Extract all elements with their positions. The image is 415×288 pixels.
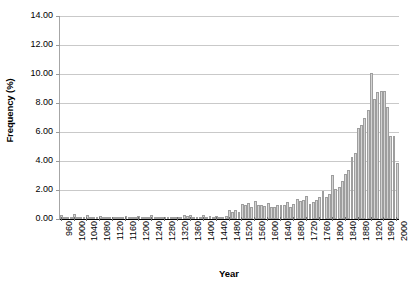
x-tick-mark <box>190 217 191 221</box>
x-tick-mark <box>177 217 178 221</box>
y-axis-title-label: Frequency (%) <box>4 78 15 142</box>
x-tick-mark <box>358 217 359 221</box>
x-tick-label: 1200 <box>142 221 151 241</box>
y-tick-label: 2.00 <box>15 185 53 194</box>
x-tick-mark <box>74 217 75 221</box>
x-tick-mark <box>203 217 204 221</box>
histogram-chart: Frequency (%) 14.0012.0010.008.006.004.0… <box>0 0 415 288</box>
x-tick-mark <box>371 217 372 221</box>
x-tick-mark <box>216 217 217 221</box>
x-tick-label: 1400 <box>207 221 216 241</box>
x-tick-label: 1360 <box>194 221 203 241</box>
x-tick-mark <box>86 217 87 221</box>
x-tick-mark <box>267 217 268 221</box>
x-axis-title: Year <box>59 268 399 279</box>
x-tick-label: 1080 <box>103 221 112 241</box>
x-tick-label: 1480 <box>233 221 242 241</box>
x-tick-label: 1640 <box>284 221 293 241</box>
x-tick-label: 2000 <box>400 221 409 241</box>
x-tick-label: 1320 <box>181 221 190 241</box>
x-axis-tick-labels: 9601000104010801120116012001240128013201… <box>59 221 399 263</box>
x-tick-label: 1240 <box>155 221 164 241</box>
x-tick-label: 1680 <box>297 221 306 241</box>
x-tick-label: 1960 <box>387 221 396 241</box>
x-tick-mark <box>306 217 307 221</box>
y-axis-tick-labels: 14.0012.0010.008.006.004.002.000.00 <box>16 0 56 230</box>
x-tick-mark <box>164 217 165 221</box>
x-tick-label: 960 <box>65 221 74 236</box>
x-tick-mark <box>396 217 397 221</box>
x-tick-label: 1840 <box>349 221 358 241</box>
bar <box>396 163 399 219</box>
y-tick-label: 12.00 <box>15 40 53 49</box>
y-tick-label: 8.00 <box>15 98 53 107</box>
x-tick-label: 1120 <box>116 221 125 240</box>
x-tick-label: 1000 <box>78 221 87 241</box>
x-tick-mark <box>345 217 346 221</box>
x-tick-label: 1160 <box>129 221 138 240</box>
x-tick-mark <box>112 217 113 221</box>
y-tick-label: 10.00 <box>15 69 53 78</box>
x-tick-mark <box>254 217 255 221</box>
x-tick-label: 1800 <box>336 221 345 241</box>
x-tick-mark <box>332 217 333 221</box>
y-tick-label: 4.00 <box>15 156 53 165</box>
x-tick-mark <box>151 217 152 221</box>
x-tick-mark <box>229 217 230 221</box>
x-tick-label: 1560 <box>258 221 267 241</box>
x-tick-mark <box>319 217 320 221</box>
y-tick-mark <box>56 219 60 220</box>
x-tick-mark <box>293 217 294 221</box>
x-tick-mark <box>125 217 126 221</box>
x-tick-label: 1440 <box>220 221 229 241</box>
x-tick-label: 1600 <box>271 221 280 241</box>
x-tick-label: 1280 <box>168 221 177 241</box>
x-tick-label: 1520 <box>245 221 254 241</box>
bars-layer <box>60 16 399 219</box>
gridline <box>60 219 399 220</box>
x-tick-label: 1760 <box>323 221 332 241</box>
x-tick-mark <box>61 217 62 221</box>
x-tick-mark <box>241 217 242 221</box>
x-tick-mark <box>383 217 384 221</box>
x-tick-mark <box>99 217 100 221</box>
x-tick-mark <box>280 217 281 221</box>
y-tick-label: 0.00 <box>15 214 53 223</box>
x-tick-label: 1880 <box>362 221 371 241</box>
plot-area <box>59 16 399 220</box>
x-tick-label: 1720 <box>310 221 319 241</box>
y-tick-label: 14.00 <box>15 11 53 20</box>
x-tick-mark <box>138 217 139 221</box>
x-tick-label: 1040 <box>90 221 99 241</box>
x-tick-label: 1920 <box>375 221 384 241</box>
y-tick-label: 6.00 <box>15 127 53 136</box>
